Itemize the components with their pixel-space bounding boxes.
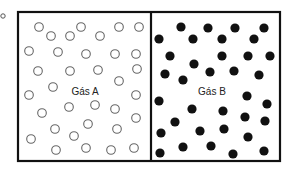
hollow-particle [77,23,86,32]
filled-particle [259,146,268,155]
hollow-particle [49,83,58,92]
hollow-particle [96,32,105,41]
filled-particle [203,23,212,32]
hollow-particle [35,23,44,32]
filled-particle [242,91,251,100]
hollow-particle [25,47,34,56]
filled-particle [165,51,174,60]
filled-particle [195,126,204,135]
hollow-particle [66,32,75,41]
hollow-particle [132,50,141,59]
filled-particle [206,141,215,150]
hollow-particle [115,23,124,32]
filled-particle [229,66,238,75]
filled-particle [262,99,271,108]
filled-particle [187,104,196,113]
hollow-particle [91,101,100,110]
hollow-particle [111,105,120,114]
hollow-particle [70,132,79,141]
filled-particle [249,34,258,43]
hollow-particle [113,125,122,134]
filled-particle [178,75,187,84]
filled-particle [189,59,198,68]
filled-particle [217,34,226,43]
hollow-particle [111,50,120,59]
gas-diagram: Gás A Gás B [0,0,292,172]
hollow-particle [133,65,142,74]
hollow-particle [47,32,56,41]
hollow-particle [130,144,139,153]
hollow-particle [94,66,103,75]
filled-particle [260,116,269,125]
filled-particle [243,51,252,60]
hollow-particle [52,146,61,155]
filled-particle [154,96,163,105]
filled-particle [228,149,237,158]
filled-particle [178,142,187,151]
hollow-particle [82,144,91,153]
hollow-particle [51,125,60,134]
marker-circle-icon [1,14,5,18]
filled-particle [254,70,263,79]
filled-particle [205,67,214,76]
hollow-particle [132,91,141,100]
filled-particle [176,22,185,31]
filled-particle [170,117,179,126]
gas-a-label: Gás A [71,86,99,97]
filled-particle [156,128,165,137]
hollow-particle [84,120,93,129]
filled-particle [218,106,227,115]
bullet-marker [1,14,5,18]
filled-particle [265,51,274,60]
filled-particle [259,23,268,32]
filled-particle [243,132,252,141]
hollow-particle [115,77,124,86]
hollow-particle [107,146,116,155]
filled-particle [230,23,239,32]
hollow-particle [38,109,47,118]
gas-b-label: Gás B [198,86,226,97]
hollow-particle [82,50,91,59]
hollow-particle [66,67,75,76]
hollow-particle [34,67,43,76]
hollow-particle [54,48,63,57]
filled-particle [160,69,169,78]
hollow-particle [25,91,34,100]
filled-particle [154,34,163,43]
filled-particle [188,34,197,43]
hollow-particle [27,135,36,144]
filled-particle [240,112,249,121]
filled-particle [219,124,228,133]
hollow-particle [65,103,74,112]
hollow-particle [132,114,141,123]
hollow-particle [135,23,144,32]
filled-particle [155,148,164,157]
filled-particle [217,51,226,60]
